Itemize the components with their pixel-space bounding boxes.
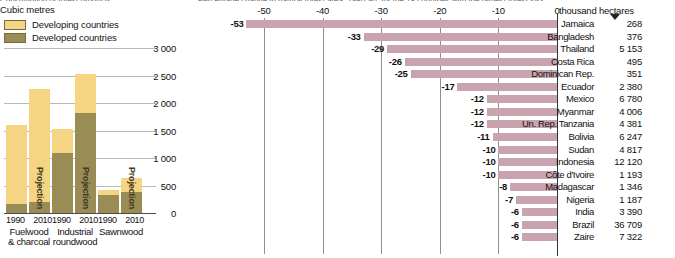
bar-value-label: -33 — [348, 31, 361, 42]
x-axis-year-label: 1990 — [52, 215, 71, 225]
projection-label: Projection — [127, 167, 137, 209]
legend-item-developing: Developing countries — [4, 18, 119, 31]
forest-area-value: 268 — [598, 18, 642, 29]
consumption-chart-panel: Consumption of forest products Cubic met… — [0, 0, 198, 258]
country-name-label: Un. Rep. Tanzania — [481, 118, 594, 129]
forest-area-value: 6 247 — [598, 131, 642, 142]
table-row: -17Ecuador2 380 — [198, 81, 675, 94]
forest-area-value: 7 322 — [598, 231, 642, 242]
bar-value-label: -29 — [371, 43, 384, 54]
forest-area-value: 376 — [598, 31, 642, 42]
forest-area-value: 2 380 — [598, 81, 642, 92]
country-name-label: Sudan — [481, 144, 594, 155]
table-row: -53Jamaica268 — [198, 18, 675, 31]
x-axis-year-label: 2010 — [33, 215, 52, 225]
table-row: -10Côte d'Ivoire1 193 — [198, 169, 675, 182]
table-row: -7Nigeria1 187 — [198, 194, 675, 207]
table-row: -6India3 390 — [198, 206, 675, 219]
bar-segment-developing — [6, 125, 27, 204]
x-axis-group: 19902010Sawnwood — [98, 215, 144, 237]
forest-area-value: 4 381 — [598, 118, 642, 129]
forest-area-value: 12 120 — [598, 156, 642, 167]
country-name-label: India — [481, 206, 594, 217]
stacked-bar: Projection — [29, 89, 50, 213]
x-axis-group: 19902010Industrialroundwood — [52, 215, 98, 247]
table-row: -26Costa Rica495 — [198, 56, 675, 69]
y-axis-tick-label: 3 000 — [132, 43, 176, 54]
table-row: -11Bolivia6 247 — [198, 131, 675, 144]
left-chart-plot: 3 0002 5002 0001 5001 0005000ProjectionP… — [4, 48, 128, 213]
table-row: -29Thailand5 153 — [198, 43, 675, 56]
country-name-label: Nigeria — [481, 194, 594, 205]
projection-label: Projection — [35, 167, 45, 209]
x-axis-year-label: 2010 — [125, 215, 144, 225]
country-name-label: Dominican Rep. — [481, 68, 594, 79]
bar-segment-developing — [52, 129, 73, 153]
forest-area-value: 1 193 — [598, 169, 642, 180]
country-name-label: Côte d'Ivoire — [481, 169, 594, 180]
table-row: -12Un. Rep. Tanzania4 381 — [198, 118, 675, 131]
stacked-bar — [6, 125, 27, 213]
right-chart-clipped-title: Percentage change in natural forest area… — [198, 0, 675, 1]
country-name-label: Jamaica — [481, 18, 594, 29]
bar-segment-developed — [52, 153, 73, 213]
x-axis-tick-label: 0 — [554, 5, 559, 16]
bar-value-label: -25 — [395, 68, 408, 79]
legend-label-developing: Developing countries — [32, 19, 119, 30]
bar-value-label: -53 — [231, 18, 244, 29]
legend-swatch-developing — [4, 20, 26, 30]
right-chart-units-label: thousand hectares — [559, 5, 634, 16]
x-axis-category-label: Sawnwood — [98, 227, 144, 237]
y-axis-tick-label: 1 000 — [132, 153, 176, 164]
x-axis-year-label: 1990 — [6, 215, 25, 225]
y-axis-tick-label: 2 000 — [132, 98, 176, 109]
legend-item-developed: Developed countries — [4, 31, 119, 44]
forest-area-value: 5 153 — [598, 43, 642, 54]
table-row: -12Myanmar4 006 — [198, 106, 675, 119]
country-name-label: Thailand — [481, 43, 594, 54]
forest-area-value: 3 390 — [598, 206, 642, 217]
legend-label-developed: Developed countries — [32, 32, 117, 43]
country-name-label: Brazil — [481, 219, 594, 230]
left-chart-legend: Developing countries Developed countries — [4, 18, 119, 44]
x-axis-tick-label: -30 — [375, 5, 388, 16]
left-chart-unit-label: Cubic metres — [0, 4, 55, 15]
bar-value-label: -17 — [442, 81, 455, 92]
forest-area-value: 4 817 — [598, 144, 642, 155]
forest-area-value: 1 187 — [598, 194, 642, 205]
country-name-label: Bangladesh — [481, 31, 594, 42]
table-row: -6Zaire7 322 — [198, 231, 675, 244]
forest-area-value: 495 — [598, 56, 642, 67]
country-name-label: Mexico — [481, 93, 594, 104]
x-axis-tick-label: -10 — [492, 5, 505, 16]
forest-area-value: 36 709 — [598, 219, 642, 230]
x-axis-category-label-line2: roundwood — [52, 237, 98, 247]
country-name-label: Costa Rica — [481, 56, 594, 67]
stacked-bar — [98, 190, 119, 213]
forest-area-value: 1 346 — [598, 181, 642, 192]
table-row: -6Brazil36 709 — [198, 219, 675, 232]
country-name-label: Ecuador — [481, 81, 594, 92]
x-axis-year-label: 1990 — [98, 215, 117, 225]
forest-loss-chart-panel: Percentage change in natural forest area… — [198, 0, 675, 258]
x-axis-year-label: 2010 — [79, 215, 98, 225]
bar-value-label: -26 — [389, 56, 402, 67]
x-axis-tick-label: -20 — [433, 5, 446, 16]
stacked-bar: Projection — [121, 178, 142, 213]
country-name-label: Bolivia — [481, 131, 594, 142]
table-row: -8Madagascar1 346 — [198, 181, 675, 194]
table-row: -12Mexico6 780 — [198, 93, 675, 106]
country-name-label: Madagascar — [481, 181, 594, 192]
table-row: -25Dominican Rep.351 — [198, 68, 675, 81]
stacked-bar: Projection — [75, 74, 96, 213]
bar-segment-developed — [6, 204, 27, 213]
legend-swatch-developed — [4, 33, 26, 43]
x-axis-category-label-line2: & charcoal — [6, 237, 52, 247]
bar-segment-developed — [98, 195, 119, 213]
forest-area-value: 6 780 — [598, 93, 642, 104]
forest-area-value: 4 006 — [598, 106, 642, 117]
y-axis-tick-label: 2 500 — [132, 70, 176, 81]
x-axis-tick-label: -40 — [316, 5, 329, 16]
bar-segment-developing — [75, 74, 96, 114]
left-chart-clipped-title: Consumption of forest products — [0, 0, 198, 1]
